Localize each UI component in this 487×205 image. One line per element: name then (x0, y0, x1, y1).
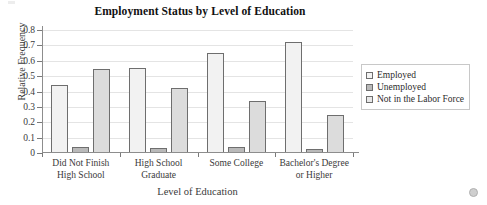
legend-item[interactable]: Employed (366, 69, 464, 81)
x-axis-tick (353, 153, 354, 157)
x-axis-line (42, 152, 359, 153)
y-axis-tick-label: 0 (30, 148, 35, 158)
bar (207, 53, 224, 153)
y-axis-tick-label: 0.8 (23, 25, 35, 35)
y-axis-tick-label: 0.7 (23, 40, 35, 50)
plot-frame: 00.10.20.30.40.50.60.70.8 (42, 30, 353, 153)
legend-item-label: Employed (377, 70, 416, 80)
x-axis-tick (120, 153, 121, 157)
circle-marker-icon (469, 188, 478, 197)
bar (171, 88, 188, 153)
y-axis-tick-label: 0.2 (23, 117, 35, 127)
bar (93, 69, 110, 153)
legend-item-label: Not in the Labor Force (377, 94, 464, 104)
y-axis-tick-label: 0.4 (23, 87, 35, 97)
x-axis-tick (198, 153, 199, 157)
x-axis-tick-label: Bachelor's Degree or Higher (275, 158, 353, 181)
bar-group (129, 30, 188, 153)
x-axis-tick-label: Some College (198, 158, 276, 170)
chart-title: Employment Status by Level of Education (0, 5, 400, 17)
y-axis-tick-label: 0.3 (23, 102, 35, 112)
legend-swatch-unemployed-icon (366, 84, 373, 91)
legend-item-label: Unemployed (377, 82, 426, 92)
bar-group (207, 30, 266, 153)
legend-item[interactable]: Not in the Labor Force (366, 93, 464, 105)
legend-swatch-not-in-labor-force-icon (366, 96, 373, 103)
y-axis-tick-label: 0.1 (23, 133, 35, 143)
page-artifact (8, 1, 15, 4)
x-axis-tick-label: Did Not Finish High School (42, 158, 120, 181)
x-axis-label: Level of Education (42, 186, 353, 197)
x-axis-tick (275, 153, 276, 157)
bar-group (51, 30, 110, 153)
bar-group (285, 30, 344, 153)
bar (249, 101, 266, 153)
bar (327, 115, 344, 153)
legend-swatch-employed-icon (366, 72, 373, 79)
y-axis-line (42, 26, 43, 153)
y-axis-tick-label: 0.5 (23, 71, 35, 81)
chart-figure: Employment Status by Level of Education … (0, 0, 487, 205)
bar (51, 85, 68, 153)
x-axis-tick-label: High School Graduate (120, 158, 198, 181)
x-axis-tick (42, 153, 43, 157)
plot-area: 00.10.20.30.40.50.60.70.8 (42, 30, 353, 153)
bar (129, 68, 146, 153)
chart-legend: EmployedUnemployedNot in the Labor Force (361, 64, 470, 110)
y-axis-tick-label: 0.6 (23, 56, 35, 66)
legend-item[interactable]: Unemployed (366, 81, 464, 93)
bar (285, 42, 302, 153)
